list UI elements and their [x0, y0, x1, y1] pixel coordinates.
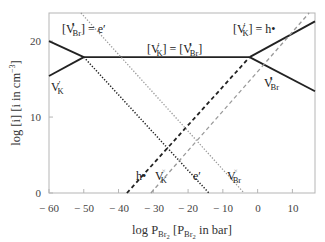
x-tick-label: − 40 — [109, 202, 129, 214]
annotation-vk-low: V′K — [51, 80, 64, 96]
y-axis-title: log [i] [i in cm−3] — [8, 60, 23, 146]
y-tick-label: 10 — [30, 111, 42, 123]
x-axis-title: log PBr2 [PBr2 in bar] — [132, 223, 232, 240]
series-line — [49, 57, 84, 76]
series-line — [250, 57, 315, 91]
defect-concentration-chart: − 60 − 50 − 40 − 30 − 20 − 10 0 10 0 10 … — [0, 0, 325, 242]
y-tick-label: 0 — [36, 187, 42, 199]
x-tick-labels: − 60 − 50 − 40 − 30 − 20 − 10 0 10 — [39, 202, 299, 214]
annotation-vk-equals-vbr: [V′K] = [V•Br] — [147, 40, 202, 58]
series-line — [49, 41, 84, 57]
y-tick-label: 20 — [30, 35, 42, 47]
data-series — [49, 13, 315, 193]
annotation-vk-neutral: V×K — [155, 167, 168, 185]
annotation-vk-equals-h: [V′K] = h• — [233, 22, 276, 38]
series-line — [151, 13, 309, 193]
x-tick-label: − 60 — [39, 202, 59, 214]
x-tick-label: − 50 — [74, 202, 94, 214]
x-tick-label: 0 — [255, 202, 261, 214]
plot-frame — [49, 13, 315, 193]
y-tick-labels: 0 10 20 — [30, 35, 42, 199]
x-tick-label: − 20 — [178, 202, 198, 214]
annotation-h: h• — [136, 169, 146, 183]
x-tick-label: 10 — [288, 202, 300, 214]
annotation-e: e′ — [193, 169, 201, 183]
x-tick-label: − 30 — [144, 202, 164, 214]
annotation-vbr-equals-e: [V•Br] = e′ — [62, 20, 106, 38]
x-tick-label: − 10 — [213, 202, 233, 214]
annotation-vbr-high: V•Br — [264, 74, 279, 92]
series-line — [81, 13, 244, 193]
annotation-vbr-neutral: V×Br — [227, 167, 241, 185]
